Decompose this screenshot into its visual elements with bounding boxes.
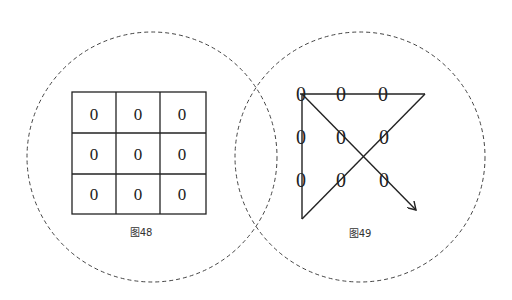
right-dashed-circle: [235, 32, 485, 282]
dot-0-0: 0: [296, 83, 306, 105]
grid-cell-0-2: 0: [178, 105, 187, 124]
figure-49-caption: 图49: [349, 228, 372, 239]
figure-48-caption: 图48: [130, 227, 153, 238]
grid-cell-1-2: 0: [178, 145, 187, 164]
grid-cell-0-0: 0: [90, 105, 99, 124]
diagram-canvas: 0 0 0 0 0 0 0 0 0 图48 0 0 0 0 0 0 0 0 0 …: [0, 0, 512, 300]
grid-cell-0-1: 0: [134, 105, 143, 124]
dot-0-1: 0: [336, 83, 346, 105]
figure-48-grid: 0 0 0 0 0 0 0 0 0: [72, 92, 206, 214]
dot-1-0: 0: [296, 126, 306, 148]
dot-2-1: 0: [336, 169, 346, 191]
dot-0-2: 0: [378, 83, 388, 105]
figure-49-dots: 0 0 0 0 0 0 0 0 0: [296, 83, 389, 191]
dot-1-1: 0: [336, 126, 346, 148]
grid-cell-2-2: 0: [178, 185, 187, 204]
dot-2-0: 0: [296, 169, 306, 191]
grid-cell-1-0: 0: [90, 145, 99, 164]
left-dashed-circle: [27, 32, 277, 282]
grid-cell-2-0: 0: [90, 185, 99, 204]
dot-1-2: 0: [379, 126, 389, 148]
dot-2-2: 0: [379, 169, 389, 191]
grid-cell-2-1: 0: [134, 185, 143, 204]
figure-49-path: [300, 94, 425, 219]
grid-cell-1-1: 0: [134, 145, 143, 164]
